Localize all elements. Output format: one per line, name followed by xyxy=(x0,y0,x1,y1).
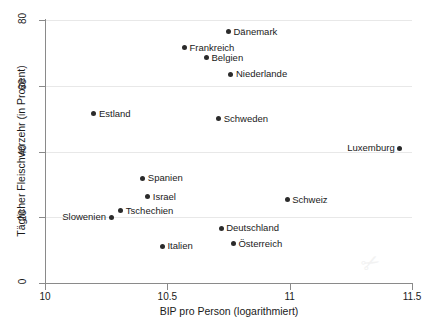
x-tick-label-11: 11 xyxy=(270,291,310,302)
y-tick-mark-20 xyxy=(39,217,45,218)
y-tick-label-40: 40 xyxy=(11,145,35,156)
y-tick-label-80: 80 xyxy=(11,13,35,24)
y-tick-label-60: 60 xyxy=(11,79,35,90)
data-point-label: Tschechien xyxy=(126,205,174,216)
x-tick-mark-11.5 xyxy=(412,284,413,290)
data-point-marker xyxy=(231,241,236,246)
data-point-marker xyxy=(91,111,96,116)
plot-area: DänemarkFrankreichBelgienNiederlandeEstl… xyxy=(45,20,412,283)
data-point-label: Slowenien xyxy=(62,211,106,222)
data-point-label: Österreich xyxy=(238,238,282,249)
x-tick-mark-10.5 xyxy=(167,284,168,290)
data-point-marker xyxy=(228,72,233,77)
data-point-marker xyxy=(118,208,123,213)
x-tick-label-10: 10 xyxy=(25,291,65,302)
data-point-label: Israel xyxy=(153,191,176,202)
data-point-label: Schweiz xyxy=(292,194,327,205)
data-point-marker xyxy=(285,197,290,202)
data-point-marker xyxy=(109,215,114,220)
data-point-marker xyxy=(226,29,231,34)
data-point-label: Niederlande xyxy=(236,68,287,79)
y-tick-mark-40 xyxy=(39,152,45,153)
data-point-label: Schweden xyxy=(224,113,268,124)
scatter-chart-figure: ✂ DänemarkFrankreichBelgienNiederlandeEs… xyxy=(0,0,434,325)
data-point-label: Dänemark xyxy=(234,26,278,37)
y-tick-label-20: 20 xyxy=(11,210,35,221)
x-axis-line xyxy=(45,283,413,284)
y-tick-label-0: 0 xyxy=(11,276,35,287)
y-tick-mark-80 xyxy=(39,20,45,21)
data-point-label: Estland xyxy=(99,108,131,119)
x-tick-label-10.5: 10.5 xyxy=(147,291,187,302)
data-point-label: Luxemburg xyxy=(347,142,395,153)
data-point-label: Italien xyxy=(167,240,192,251)
x-tick-label-11.5: 11.5 xyxy=(392,291,432,302)
data-point-marker xyxy=(145,194,150,199)
gridline-y-80 xyxy=(45,20,412,21)
data-point-marker xyxy=(182,45,187,50)
x-tick-mark-11 xyxy=(290,284,291,290)
data-point-label: Belgien xyxy=(211,52,243,63)
data-point-marker xyxy=(216,116,221,121)
data-point-marker xyxy=(204,55,209,60)
data-point-label: Spanien xyxy=(148,172,183,183)
data-point-label: Deutschland xyxy=(226,222,279,233)
data-point-marker xyxy=(219,226,224,231)
x-axis-title: BIP pro Person (logarithmiert) xyxy=(45,305,413,317)
data-point-marker xyxy=(140,176,145,181)
gridline-y-60 xyxy=(45,86,412,87)
x-tick-mark-10 xyxy=(45,284,46,290)
data-point-marker xyxy=(397,146,402,151)
data-point-marker xyxy=(160,244,165,249)
y-axis-line xyxy=(45,19,46,284)
y-tick-mark-60 xyxy=(39,86,45,87)
